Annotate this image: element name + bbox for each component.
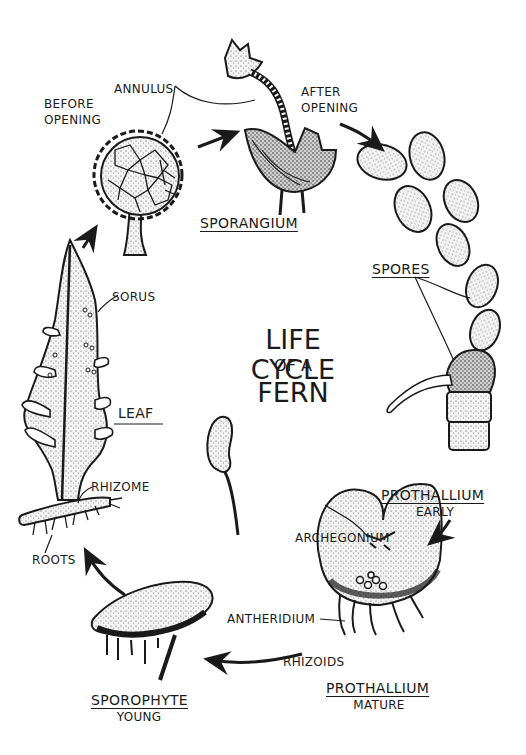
- title-line3: FERN: [228, 378, 358, 408]
- roots-pointer: [45, 535, 52, 553]
- title-line1: LIFE CYCLE: [228, 325, 358, 385]
- after-opening-label: AFTER OPENING: [301, 84, 358, 116]
- arrow-leaf-to-sporangium: [83, 232, 93, 248]
- sporangium-label: SPORANGIUM: [200, 216, 298, 230]
- annulus-pointer: [162, 86, 255, 134]
- title-line2: OF A: [228, 357, 358, 375]
- spores-label: SPORES: [372, 262, 430, 276]
- roots-label: ROOTS: [32, 553, 76, 567]
- arrow-sporangium-opening: [198, 134, 232, 147]
- prothallium-early-sub: EARLY: [381, 505, 489, 519]
- sporangium-before-opening: [94, 131, 182, 255]
- before-opening-label: BEFORE OPENING: [44, 96, 101, 128]
- sorus-label: SORUS: [112, 290, 155, 304]
- leaf-label: LEAF: [118, 406, 153, 420]
- prothallium-mature-sub: MATURE: [326, 698, 432, 712]
- rhizome-label: RHIZOME: [91, 480, 150, 494]
- sporophyte-label: SPOROPHYTE: [91, 693, 188, 707]
- prothallium-mature-label: PROTHALLIUM: [326, 681, 429, 695]
- arrow-to-spores: [340, 124, 378, 146]
- arrow-to-leaf: [88, 555, 125, 595]
- prothallium-early-label: PROTHALLIUM: [381, 488, 484, 502]
- spores: [353, 128, 505, 354]
- sporangium-after-opening: [225, 40, 336, 215]
- sporophyte-young: [92, 417, 238, 680]
- antheridium-label: ANTHERIDIUM: [227, 612, 315, 626]
- prothallium-early: [387, 350, 495, 450]
- antheridium-pointer: [320, 619, 345, 621]
- sporophyte-sub: YOUNG: [91, 710, 187, 724]
- rhizoids-label: RHIZOIDS: [283, 655, 344, 669]
- annulus-label: ANNULUS: [114, 82, 174, 96]
- archegonium-label: ARCHEGONIUM: [295, 531, 390, 545]
